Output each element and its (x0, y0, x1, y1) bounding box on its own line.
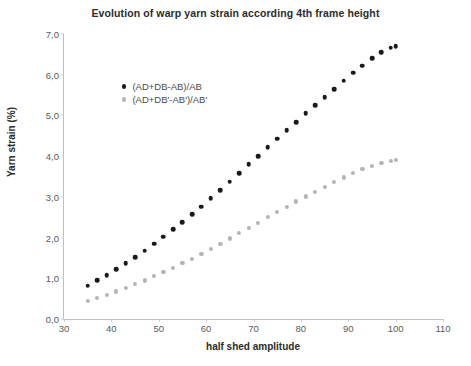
data-point (351, 171, 355, 175)
x-axis-tick-label: 30 (59, 323, 70, 334)
data-point (142, 248, 147, 253)
data-point (95, 296, 99, 300)
data-point (322, 185, 326, 189)
data-point (114, 267, 119, 272)
x-axis-tick-mark (396, 319, 397, 322)
x-axis-tick-label: 60 (201, 323, 212, 334)
y-axis-tick-label: 5,0 (46, 110, 59, 121)
y-axis-tick-label: 6,0 (46, 69, 59, 80)
data-point (313, 103, 318, 108)
data-point (180, 261, 184, 265)
data-point (171, 266, 175, 270)
data-point (394, 158, 398, 162)
data-point (218, 188, 223, 193)
y-axis-tick-mark (61, 196, 64, 197)
plot-area: 0,01,02,03,04,05,06,07,03040506070809010… (63, 34, 443, 320)
chart-container: Evolution of warp yarn strain according … (0, 0, 471, 366)
data-point (275, 210, 279, 214)
x-axis-tick-mark (348, 319, 349, 322)
data-point (95, 278, 100, 283)
y-axis-tick-mark (61, 237, 64, 238)
x-axis-tick-mark (254, 319, 255, 322)
x-axis-tick-label: 50 (153, 323, 164, 334)
data-point (285, 205, 289, 209)
data-point (294, 120, 299, 125)
data-point (161, 270, 165, 274)
legend-item: (AD+DB'-AB')/AB' (122, 93, 207, 106)
data-point (304, 194, 308, 198)
x-axis-tick-label: 40 (106, 323, 117, 334)
y-axis-tick-mark (61, 74, 64, 75)
data-point (246, 162, 251, 167)
data-point (370, 56, 375, 61)
data-point (209, 196, 214, 201)
data-points-layer (64, 34, 443, 319)
data-point (123, 261, 128, 266)
data-point (332, 87, 337, 92)
x-axis-tick-label: 100 (388, 323, 404, 334)
y-axis-tick-mark (61, 34, 64, 35)
data-point (256, 154, 261, 159)
chart-title: Evolution of warp yarn strain according … (0, 7, 471, 19)
data-point (332, 180, 336, 184)
data-point (86, 299, 90, 303)
data-point (199, 204, 204, 209)
x-axis-tick-label: 80 (296, 323, 307, 334)
data-point (142, 278, 146, 282)
data-point (114, 289, 118, 293)
data-point (152, 274, 156, 278)
data-point (171, 227, 176, 232)
x-axis-tick-label: 110 (435, 323, 450, 334)
data-point (247, 226, 251, 230)
data-point (237, 231, 241, 235)
data-point (322, 95, 327, 100)
x-axis-tick-mark (443, 319, 444, 322)
legend-marker-icon (122, 84, 126, 88)
data-point (199, 252, 203, 256)
x-axis-tick-mark (159, 319, 160, 322)
data-point (351, 70, 356, 75)
data-point (237, 171, 242, 176)
y-axis-label: Yarn strain (%) (6, 107, 17, 177)
data-point (104, 273, 109, 278)
y-axis-tick-label: 7,0 (46, 29, 59, 40)
data-point (256, 220, 260, 224)
data-point (393, 44, 398, 49)
data-point (180, 220, 185, 225)
data-point (190, 257, 194, 261)
y-axis-tick-label: 0,0 (46, 314, 59, 325)
y-axis-tick-mark (61, 156, 64, 157)
x-axis-tick-mark (64, 319, 65, 322)
y-axis-tick-label: 3,0 (46, 191, 59, 202)
y-axis-tick-mark (61, 278, 64, 279)
data-point (161, 234, 166, 239)
legend-label: (AD+DB'-AB')/AB' (132, 94, 207, 105)
x-axis-tick-label: 90 (343, 323, 354, 334)
x-axis-label: half shed amplitude (63, 341, 443, 352)
data-point (341, 175, 345, 179)
data-point (218, 242, 222, 246)
y-axis-tick-mark (61, 115, 64, 116)
chart-legend: (AD+DB-AB)/AB (AD+DB'-AB')/AB' (122, 80, 207, 106)
data-point (265, 145, 270, 150)
y-axis-tick-label: 1,0 (46, 273, 59, 284)
legend-label: (AD+DB-AB)/AB (132, 81, 201, 92)
x-axis-tick-mark (301, 319, 302, 322)
data-point (123, 286, 127, 290)
data-point (228, 236, 232, 240)
data-point (341, 79, 346, 84)
data-point (379, 161, 383, 165)
data-point (275, 136, 280, 141)
data-point (228, 179, 233, 184)
data-point (303, 111, 308, 116)
data-point (152, 241, 157, 246)
data-point (379, 50, 384, 55)
data-point (190, 212, 195, 217)
data-point (133, 282, 137, 286)
x-axis-tick-mark (206, 319, 207, 322)
data-point (389, 159, 393, 163)
data-point (313, 189, 317, 193)
x-axis-tick-label: 70 (248, 323, 259, 334)
data-point (360, 63, 365, 68)
y-axis-tick-label: 4,0 (46, 151, 59, 162)
